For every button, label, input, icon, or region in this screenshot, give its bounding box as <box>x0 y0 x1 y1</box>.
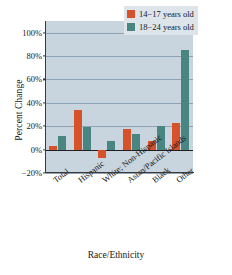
legend-item: 18−24 years old <box>127 22 194 32</box>
bar <box>58 136 66 150</box>
legend-item: 14−17 years old <box>127 9 194 19</box>
x-axis-tick-label: Other <box>174 165 195 185</box>
x-axis-line <box>45 172 194 173</box>
bar <box>83 127 91 149</box>
gridline <box>46 56 193 57</box>
y-axis-tick-mark <box>43 32 46 33</box>
gridline <box>46 79 193 80</box>
y-axis-tick-mark <box>43 79 46 80</box>
legend: 14−17 years old 18−24 years old <box>124 6 198 35</box>
legend-swatch-icon <box>127 23 135 31</box>
y-axis-tick-mark <box>43 102 46 103</box>
gridline <box>46 126 193 127</box>
y-axis-tick-label: 0% <box>31 145 42 155</box>
gridline <box>46 103 193 104</box>
bar <box>107 141 115 149</box>
bar <box>74 110 82 150</box>
y-axis-tick-mark <box>43 149 46 150</box>
y-axis-tick-mark <box>43 55 46 56</box>
y-axis-tick-label: 100% <box>22 28 42 38</box>
y-axis-tick-label: −20% <box>22 168 42 178</box>
legend-item-label: 18−24 years old <box>139 22 194 32</box>
y-axis-tick-label: 80% <box>26 51 42 61</box>
y-axis-tick-mark <box>43 126 46 127</box>
y-axis-title: Percent Change <box>14 50 24 170</box>
legend-item-label: 14−17 years old <box>139 9 194 19</box>
x-axis-tick-label: Total <box>51 166 71 185</box>
bar <box>123 129 131 150</box>
legend-swatch-icon <box>127 10 135 18</box>
bar-chart-figure: Percent Change −20%0%20%40%60%80%100% To… <box>0 0 232 275</box>
bar <box>98 150 106 158</box>
bar <box>49 146 57 150</box>
y-axis-tick-label: 40% <box>26 98 42 108</box>
plot-area: −20%0%20%40%60%80%100% TotalHispanicWhit… <box>45 21 193 173</box>
y-axis-tick-label: 60% <box>26 74 42 84</box>
y-axis-tick-label: 20% <box>26 121 42 131</box>
x-axis-title: Race/Ethnicity <box>0 250 232 260</box>
